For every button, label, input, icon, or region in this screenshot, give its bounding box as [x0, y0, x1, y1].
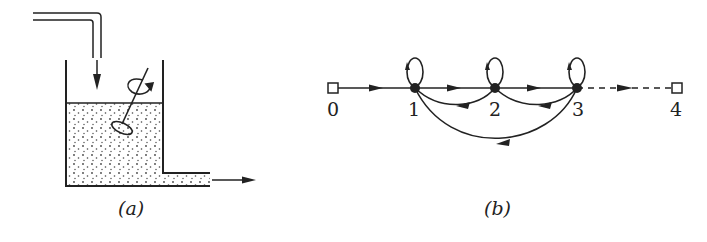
arrow-2-3-icon	[527, 85, 541, 92]
edge-3-2	[495, 88, 577, 105]
arrow-3-4-icon	[617, 85, 633, 92]
arrow-2-1-icon	[456, 102, 470, 109]
edge-2-1	[415, 88, 495, 105]
node-label-3: 3	[572, 98, 584, 120]
liquid	[67, 103, 163, 186]
loop-3	[569, 58, 585, 86]
figure: (a)	[0, 0, 707, 242]
arrow-0-1-icon	[369, 85, 383, 92]
node-3	[572, 83, 582, 93]
node-label-1: 1	[408, 98, 420, 120]
node-label-4: 4	[670, 98, 682, 120]
caption-b: (b)	[484, 197, 511, 219]
arrow-3-2-icon	[538, 102, 552, 109]
node-4	[672, 83, 682, 93]
loop-1	[407, 58, 423, 86]
self-loops	[407, 58, 585, 86]
outlet-liquid	[163, 173, 210, 186]
arrow-1-2-icon	[447, 85, 461, 92]
node-label-2: 2	[489, 98, 501, 120]
arrow-3-1-icon	[496, 139, 510, 146]
caption-a: (a)	[118, 197, 144, 219]
outflow-arrow-icon	[212, 177, 256, 184]
node-1	[410, 83, 420, 93]
node-2	[490, 83, 500, 93]
back-arc-arrowheads	[456, 102, 552, 146]
node-0	[328, 83, 338, 93]
loop-2	[487, 58, 503, 86]
inlet-pipe	[33, 13, 101, 58]
inflow-arrow-icon	[93, 60, 101, 90]
node-label-0: 0	[327, 98, 339, 120]
panel-b: 0 1 2 3 4 (b)	[327, 58, 682, 219]
panel-a: (a)	[33, 13, 256, 219]
